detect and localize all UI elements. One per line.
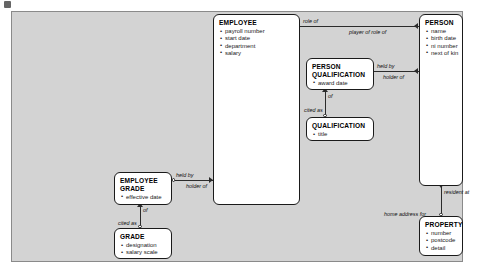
attribute-item: next of kin [426, 50, 458, 57]
connector-employee-person [300, 26, 419, 27]
entity-attributes-person: name birth date ni number next of kin [420, 28, 462, 60]
entity-person-qualification[interactable]: PERSON QUALIFICATION award date [306, 58, 374, 90]
attribute-item: designation [121, 242, 167, 249]
relationship-label-held-by-grade: held by [176, 172, 193, 178]
entity-title-employee-grade-line2: GRADE [115, 185, 171, 193]
entity-attributes-property: number postcode detail [420, 230, 462, 255]
crowfoot-employee-empgrade [209, 177, 213, 183]
attribute-item: ni number [426, 43, 458, 50]
crowfoot-person-personqual [414, 68, 418, 74]
attribute-item: postcode [426, 237, 458, 244]
entity-employee[interactable]: EMPLOYEE payroll number start date depar… [213, 14, 300, 205]
entity-title-property: PROPERTY [420, 217, 462, 229]
entity-grade[interactable]: GRADE designation salary scale [114, 228, 172, 259]
attribute-item: title [313, 131, 369, 138]
attribute-item: salary scale [121, 249, 167, 256]
attribute-item: number [426, 230, 458, 237]
entity-property[interactable]: PROPERTY number postcode detail [419, 216, 463, 256]
attribute-item: award date [313, 80, 369, 87]
relationship-label-player-of-role-of: player of role of [349, 29, 386, 35]
entity-attributes-grade: designation salary scale [115, 242, 171, 259]
entity-attributes-qualification: title [307, 131, 373, 141]
entity-title-person-qualification-line1: PERSON [307, 59, 373, 71]
connector-person-property [441, 186, 442, 216]
entity-title-person-qualification-line2: QUALIFICATION [307, 71, 373, 79]
relationship-label-resident-at: resident at [444, 189, 469, 195]
entity-title-grade: GRADE [115, 229, 171, 241]
connector-empgrade-employee [175, 180, 213, 181]
attribute-item: detail [426, 245, 458, 252]
entity-person[interactable]: PERSON name birth date ni number next of… [419, 14, 463, 186]
entity-employee-grade[interactable]: EMPLOYEE GRADE effective date [114, 172, 172, 205]
relationship-label-role-of: role of [303, 18, 318, 24]
attribute-item: salary [220, 50, 295, 57]
attribute-item: start date [220, 35, 295, 42]
entity-title-employee-grade-line1: EMPLOYEE [115, 173, 171, 185]
relationship-label-of-grade: of [143, 207, 148, 213]
crowfoot-person-employee [414, 23, 418, 29]
entity-attributes-employee: payroll number start date department sal… [214, 28, 299, 60]
entity-title-employee: EMPLOYEE [214, 15, 299, 27]
entity-title-qualification: QUALIFICATION [307, 118, 373, 130]
page-corner-artifact [4, 1, 11, 8]
attribute-item: department [220, 43, 295, 50]
attribute-item: effective date [121, 194, 167, 201]
entity-title-person: PERSON [420, 15, 462, 27]
relationship-label-held-by-personqual: held by [377, 63, 394, 69]
connector-personqual-person [374, 71, 419, 72]
relationship-label-cited-as-qualification: cited as [304, 107, 323, 113]
attribute-item: payroll number [220, 28, 295, 35]
relationship-label-holder-of-personqual: holder of [383, 74, 404, 80]
relationship-label-cited-as-grade: cited as [118, 220, 137, 226]
attribute-item: name [426, 28, 458, 35]
connector-personqual-qualification [325, 90, 326, 117]
entity-qualification[interactable]: QUALIFICATION title [306, 117, 374, 141]
attribute-item: birth date [426, 35, 458, 42]
entity-attributes-person-qualification: award date [307, 80, 373, 90]
entity-attributes-employee-grade: effective date [115, 194, 171, 204]
relationship-label-home-address-for: home address for [384, 211, 426, 217]
relationship-label-of-qualification: of [328, 93, 333, 99]
diagram-canvas: role of player of role of held by holder… [0, 0, 482, 272]
relationship-label-holder-of-grade: holder of [186, 183, 207, 189]
